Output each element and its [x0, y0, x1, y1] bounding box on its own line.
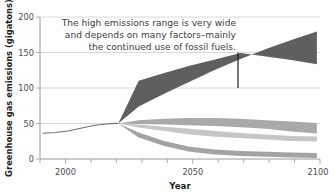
emissions-projection-chart: 200 150 100 50 0 2000 2050 2100 Year Gr	[0, 0, 333, 194]
xtick-label-2050: 2050	[182, 167, 203, 177]
y-axis-title: Greenhouse gas emissions (gigatons)	[4, 0, 14, 177]
ytick-label-100: 100	[18, 83, 34, 93]
xtick-label-2000: 2000	[55, 167, 76, 177]
x-axis-title: Year	[168, 181, 191, 191]
annotation-line-2: and depends on many factors–mainly	[65, 30, 237, 40]
ytick-label-50: 50	[24, 119, 34, 129]
ytick-label-0: 0	[29, 154, 34, 164]
ytick-label-150: 150	[18, 48, 34, 58]
ytick-label-200: 200	[18, 12, 34, 22]
xtick-label-2100: 2100	[308, 167, 329, 177]
annotation-line-3: the continued use of fossil fuels.	[88, 42, 236, 52]
annotation-line-1: The high emissions range is very wide	[61, 18, 237, 28]
